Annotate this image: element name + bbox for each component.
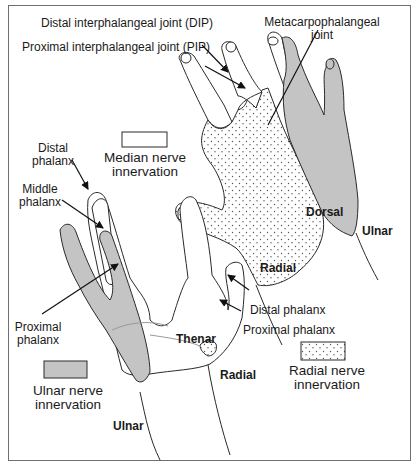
legend-ulnar-line2: innervation (28, 398, 108, 412)
label-ulnar-dorsal: Ulnar (362, 225, 393, 238)
label-mcp: Metacarpophalangeal joint (262, 16, 382, 42)
legend-swatch-ulnar (44, 361, 87, 378)
label-thenar: Thenar (176, 333, 216, 346)
label-mcp-line2: joint (262, 29, 382, 42)
label-thumb-proximal-phalanx: Proximal phalanx (243, 324, 335, 337)
label-distal-phalanx: Distal phalanx (28, 142, 78, 168)
label-middle-phalanx-line2: phalanx (14, 196, 66, 209)
legend-radial-line2: innervation (282, 378, 372, 392)
label-proximal-phalanx: Proximal phalanx (12, 321, 64, 347)
legend-ulnar-line1: Ulnar nerve (28, 384, 108, 398)
label-radial-dorsal: Radial (260, 262, 296, 275)
label-middle-phalanx: Middle phalanx (14, 183, 66, 209)
legend-radial-text: Radial nerve innervation (282, 364, 372, 392)
legend-median-text: Median nerve innervation (100, 151, 190, 179)
label-radial-palm: Radial (220, 369, 256, 382)
label-thumb-distal-phalanx: Distal phalanx (250, 304, 325, 317)
label-distal-phalanx-line2: phalanx (28, 155, 78, 168)
label-dorsal: Dorsal (306, 206, 343, 219)
legend-median-line1: Median nerve (100, 151, 190, 165)
legend-ulnar-text: Ulnar nerve innervation (28, 384, 108, 412)
label-proximal-phalanx-line2: phalanx (12, 334, 64, 347)
label-dip: Distal interphalangeal joint (DIP) (41, 17, 213, 30)
label-ulnar-palm: Ulnar (113, 420, 144, 433)
legend-swatch-median (122, 132, 167, 147)
legend-radial-line1: Radial nerve (282, 364, 372, 378)
legend-swatch-radial (301, 342, 345, 360)
label-pip: Proximal interphalangeal joint (PIP) (22, 41, 210, 54)
legend-median-line2: innervation (100, 165, 190, 179)
